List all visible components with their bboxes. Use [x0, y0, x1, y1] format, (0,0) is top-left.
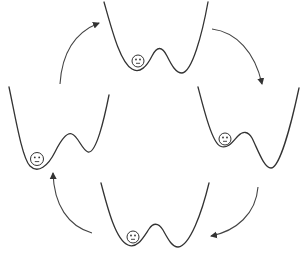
- smiley-face-icon: [31, 153, 44, 166]
- arrow-left-to-top: [60, 23, 99, 84]
- smiley-face-icon: [127, 231, 139, 243]
- left-double-well: [9, 87, 109, 169]
- arrow-bottom-to-left: [53, 173, 92, 233]
- smiley-face-icon: [219, 133, 231, 145]
- bottom-double-well: [101, 183, 209, 247]
- arrow-top-to-right: [212, 29, 262, 84]
- arrow-right-to-bottom: [211, 187, 258, 236]
- smiley-face-icon: [132, 55, 144, 67]
- top-double-well: [104, 2, 208, 73]
- double-well-cycle-diagram: [0, 0, 308, 255]
- right-double-well: [198, 87, 299, 168]
